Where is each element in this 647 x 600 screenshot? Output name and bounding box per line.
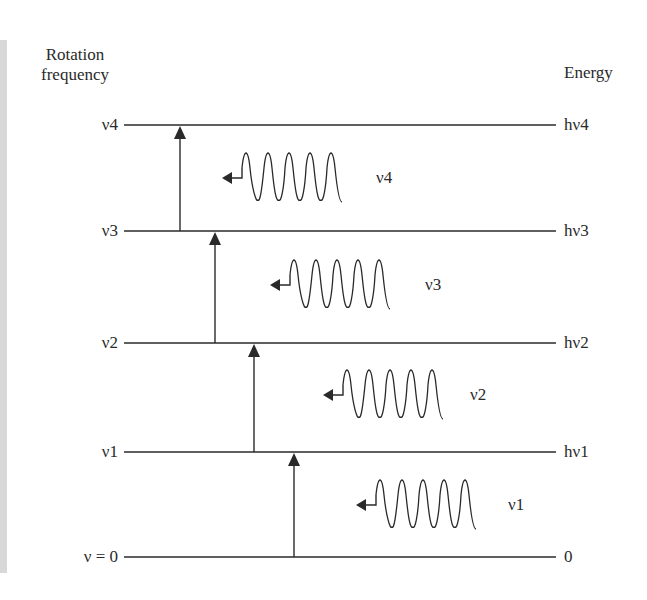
photon-wave-icon xyxy=(222,153,342,202)
transition-arrows xyxy=(174,126,300,557)
up-arrow-icon xyxy=(174,126,186,231)
level-lines xyxy=(124,125,556,557)
up-arrow-icon xyxy=(288,453,300,557)
energy-level-diagram xyxy=(0,0,647,600)
photon-wave-icon xyxy=(270,260,390,309)
photon-wave-icon xyxy=(323,370,443,419)
up-arrow-icon xyxy=(209,232,221,343)
up-arrow-icon xyxy=(248,344,260,452)
photon-wave-icon xyxy=(356,480,476,529)
